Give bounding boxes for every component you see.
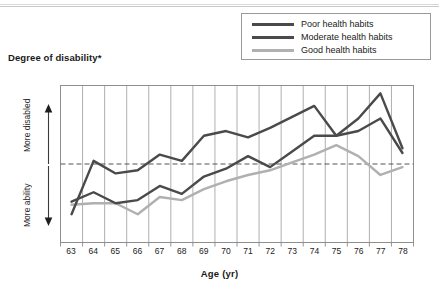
x-tick-label-70: 70 bbox=[215, 246, 237, 258]
x-axis-title: Age (yr) bbox=[0, 268, 439, 279]
x-tick-label-65: 65 bbox=[104, 246, 126, 258]
x-tick-label-77: 77 bbox=[370, 246, 392, 258]
x-tick-label-69: 69 bbox=[193, 246, 215, 258]
x-tick-label-74: 74 bbox=[303, 246, 325, 258]
x-tick-label-75: 75 bbox=[326, 246, 348, 258]
x-tick-label-67: 67 bbox=[149, 246, 171, 258]
x-tick-label-68: 68 bbox=[171, 246, 193, 258]
x-tick-label-64: 64 bbox=[82, 246, 104, 258]
x-tick-label-66: 66 bbox=[126, 246, 148, 258]
x-axis-tick-labels: 63646566676869707172737475767778 bbox=[60, 246, 414, 258]
x-tick-label-72: 72 bbox=[259, 246, 281, 258]
x-tick-label-76: 76 bbox=[348, 246, 370, 258]
x-tick-label-73: 73 bbox=[281, 246, 303, 258]
x-tick-label-78: 78 bbox=[392, 246, 414, 258]
x-tick-label-63: 63 bbox=[60, 246, 82, 258]
x-tick-label-71: 71 bbox=[237, 246, 259, 258]
